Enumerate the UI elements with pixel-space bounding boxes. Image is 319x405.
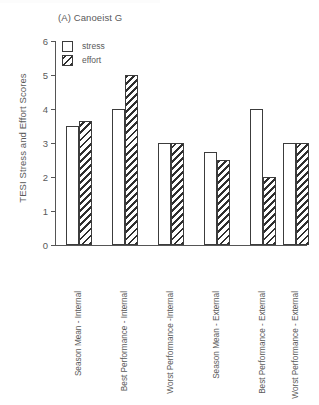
y-tick-label-3: 3: [43, 138, 48, 149]
y-tick-label-0: 0: [43, 240, 48, 251]
legend-swatch-stress-icon: [62, 41, 73, 52]
x-tick-label: Season Mean - External: [211, 291, 223, 405]
plot-area: 0 1 2 3 4 5 6: [55, 41, 307, 245]
bar-stress[interactable]: [158, 143, 171, 245]
legend: stress effort: [62, 40, 120, 68]
bar-effort[interactable]: [217, 160, 230, 245]
figure-canvas: (A) Canoeist G TESI Stress and Effort Sc…: [0, 0, 319, 405]
legend-label-stress: stress: [82, 40, 105, 53]
bar-effort[interactable]: [171, 143, 184, 245]
y-tick-label-2: 2: [43, 172, 48, 183]
y-axis-title: TESI Stress and Effort Scores: [16, 23, 30, 253]
bar-effort[interactable]: [263, 177, 276, 245]
legend-label-effort: effort: [82, 54, 101, 67]
bar-effort[interactable]: [125, 75, 138, 245]
x-tick-label: Worst Performance - External: [290, 291, 302, 405]
x-tick-label: Best Performance - External: [257, 291, 269, 405]
y-tick-label-4: 4: [43, 104, 48, 115]
x-tick-label: Worst Performance -Internal: [165, 291, 177, 405]
bar-stress[interactable]: [112, 109, 125, 245]
bar-stress[interactable]: [204, 152, 217, 246]
legend-item-effort[interactable]: effort: [62, 54, 120, 68]
bar-stress[interactable]: [250, 109, 263, 245]
legend-swatch-effort-icon: [62, 55, 73, 66]
x-tick-label: Season Mean - Internal: [73, 291, 85, 405]
legend-item-stress[interactable]: stress: [62, 40, 120, 54]
x-tick-label: Best Performance - Internal: [119, 291, 131, 405]
y-tick-label-1: 1: [43, 206, 48, 217]
y-tick-label-5: 5: [43, 70, 48, 81]
x-axis-line: [55, 245, 307, 246]
bar-effort[interactable]: [296, 143, 309, 245]
panel-title: (A) Canoeist G: [58, 12, 122, 23]
bar-effort[interactable]: [79, 121, 92, 245]
top-edge-artifact: [0, 0, 160, 3]
bar-stress[interactable]: [66, 126, 79, 245]
bar-stress[interactable]: [283, 143, 296, 245]
y-tick-label-6: 6: [43, 36, 48, 47]
